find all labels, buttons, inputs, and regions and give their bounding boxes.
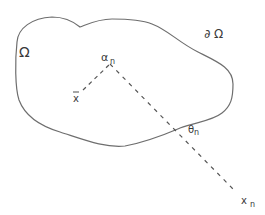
- far-point-label-subscript: n: [250, 200, 255, 209]
- vertex-label-subscript: n: [110, 57, 115, 66]
- dashed-segment-xbar-to-alpha: [83, 64, 110, 90]
- dashed-ray-alpha-to-xn: [110, 64, 236, 192]
- domain-diagram: Ω ∂ Ω α n x θ n x n: [0, 0, 265, 215]
- vertex-label: α: [101, 51, 108, 64]
- angle-label-subscript: n: [194, 128, 199, 137]
- point-label: x: [73, 93, 79, 104]
- far-point-label: x: [241, 195, 247, 206]
- boundary-label: ∂ Ω: [204, 27, 223, 41]
- region-boundary-curve: [16, 17, 233, 146]
- region-label: Ω: [19, 44, 30, 60]
